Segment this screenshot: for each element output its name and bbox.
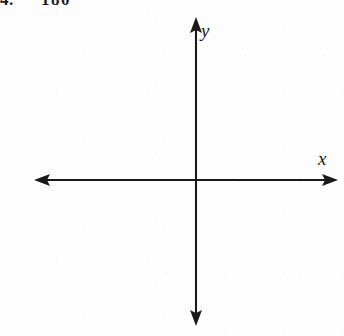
x-axis-label: x: [318, 149, 326, 168]
axes-drawing: [0, 0, 344, 336]
y-axis-label: y: [201, 21, 209, 40]
figure-page: 4. 180 y x: [0, 0, 344, 336]
coordinate-plane: y x: [0, 0, 344, 336]
